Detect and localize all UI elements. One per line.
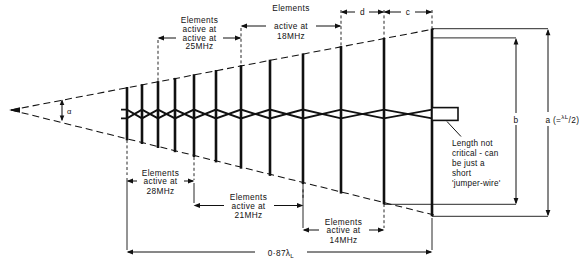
dim-arrow-left-28mhz-icon — [127, 179, 133, 184]
dim-spacing-c: c — [384, 7, 433, 17]
apex-arrow-icon — [9, 107, 20, 113]
overall-number: 0·87 — [268, 248, 286, 258]
a-formula-div: /2 — [569, 115, 577, 125]
dim-label-18mhz-line2: active at — [274, 21, 308, 31]
dim-label-b: b — [514, 115, 519, 125]
dim-label-25mhz-line1: Elements — [181, 15, 218, 25]
right-leader-lines — [384, 29, 548, 217]
dim-label-c: c — [406, 7, 411, 17]
taper-envelope — [9, 29, 434, 215]
dim-arrow-down-b-icon — [514, 198, 519, 204]
callout-line-4: short — [452, 169, 472, 178]
dim-label-14mhz-line2: active at — [326, 225, 360, 235]
dim-elements-active-14mhz: Elements active at 14MHz — [303, 217, 385, 245]
dim-arrow-up-b-icon — [514, 38, 519, 44]
callout-jumper-wire: Length not critical - can be just a shor… — [447, 122, 501, 188]
overall-lambda-sub: L — [290, 252, 294, 259]
apex-angle-marker: α — [60, 99, 72, 121]
callout-leader-line — [447, 122, 461, 137]
dim-arrow-left-d-icon — [341, 10, 347, 15]
jumper-wire-rect — [432, 108, 458, 121]
callout-line-3: be just a — [452, 159, 485, 168]
dim-arrow-right-overall-icon — [426, 250, 432, 255]
dim-arrow-up-a-icon — [546, 29, 551, 35]
callout-line-5: 'jumper-wire' — [452, 179, 501, 188]
dim-overall-length: 0·87λL — [127, 247, 433, 259]
dim-label-a-formula: (=λL/2) — [553, 113, 579, 124]
dim-elements-active-25mhz: Elements active at 25MHz active at — [158, 15, 242, 51]
dim-label-25mhz-line2b: active at — [182, 33, 216, 43]
dim-label-d: d — [360, 7, 365, 17]
dim-arrow-left-14mhz-icon — [303, 228, 309, 233]
dim-arrow-left-21mhz-icon — [194, 203, 200, 208]
callout-line-1: Length not — [452, 139, 493, 148]
dim-arrow-right-d-icon — [378, 10, 384, 15]
dim-elements-active-28mhz: Elements active at 28MHz — [127, 168, 195, 196]
dim-elements-active-21mhz: Elements active at 21MHz — [194, 192, 304, 220]
dim-label-28mhz-line3: 28MHz — [146, 186, 174, 196]
callout-line-2: critical - can — [452, 149, 499, 158]
diagram-canvas: α — [0, 0, 579, 266]
dim-spacing-d: d — [341, 7, 385, 17]
apex-angle-arrow-down-icon — [60, 115, 65, 121]
dim-arrow-right-28mhz-icon — [188, 179, 194, 184]
dim-arrow-left-c-icon — [384, 10, 390, 15]
transposed-feeder-boom — [121, 110, 444, 119]
dim-label-a: a — [546, 115, 551, 125]
dim-arrow-right-25mhz-icon — [235, 36, 241, 41]
dim-arrow-right-21mhz-icon — [297, 203, 303, 208]
apex-angle-label: α — [67, 107, 72, 116]
dim-element-b: b — [509, 38, 523, 204]
dim-arrow-left-overall-icon — [127, 250, 133, 255]
dim-arrow-left-25mhz-icon — [158, 36, 164, 41]
dim-element-a: a (=λL/2) — [541, 29, 579, 216]
lpda-diagram-figure: α — [0, 0, 579, 266]
a-formula-open: (= — [553, 115, 561, 125]
dim-label-18mhz-line3: 18MHz — [277, 31, 305, 41]
taper-bottom-line — [11, 110, 434, 215]
dim-label-21mhz-line2: active at — [231, 201, 265, 211]
dim-elements-active-18mhz: Elements active at 18MHz — [241, 3, 342, 41]
dim-arrow-right-18mhz-icon — [335, 24, 341, 29]
dim-label-28mhz-line2: active at — [143, 176, 177, 186]
dim-arrow-down-a-icon — [546, 210, 551, 216]
dim-label-21mhz-line3: 21MHz — [234, 210, 262, 220]
dim-arrow-left-18mhz-icon — [241, 24, 247, 29]
dim-label-14mhz-line3: 14MHz — [329, 235, 357, 245]
dim-label-18mhz-line1: Elements — [272, 3, 309, 13]
dim-arrow-right-c-icon — [426, 10, 432, 15]
dim-arrow-right-14mhz-icon — [378, 228, 384, 233]
jumper-wire-stub — [432, 108, 458, 121]
